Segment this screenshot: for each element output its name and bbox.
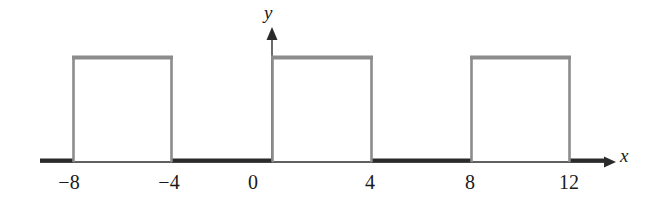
pulse-minus8-to-minus4 bbox=[72, 57, 173, 162]
square-wave-plot bbox=[0, 0, 655, 207]
x-tick-label-eight: 8 bbox=[465, 172, 475, 192]
x-tick-label-minus8: −8 bbox=[58, 172, 79, 192]
pulse-0-to-4 bbox=[271, 57, 373, 162]
x-tick-label-four: 4 bbox=[365, 172, 375, 192]
x-axis-label: x bbox=[620, 146, 628, 165]
x-axis-arrowhead bbox=[604, 157, 616, 168]
pulse-8-to-12 bbox=[470, 57, 571, 162]
x-tick-label-twelve: 12 bbox=[559, 172, 579, 192]
x-tick-label-zero: 0 bbox=[248, 172, 258, 192]
x-tick-label-minus4: −4 bbox=[158, 172, 179, 192]
y-axis-label: y bbox=[264, 3, 272, 22]
y-axis-arrowhead bbox=[267, 27, 278, 40]
square-wave-figure: −8 −4 0 4 8 12 y x bbox=[0, 0, 655, 207]
